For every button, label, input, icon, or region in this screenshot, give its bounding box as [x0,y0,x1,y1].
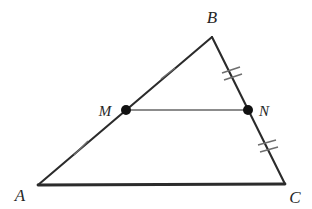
tick-mark-nc-double [258,140,278,152]
geometry-figure: A B C M N [0,0,312,209]
point-label-m: M [98,103,113,119]
tick-mark-mb-single [161,68,175,79]
vertex-label-b: B [207,8,218,27]
point-marker-m [121,105,131,115]
point-label-n: N [258,103,270,119]
triangle-diagram-svg: A B C M N [0,0,312,209]
tick-mark-am-single [74,141,88,155]
vertex-label-c: C [289,188,301,207]
tick-mark-bn-double [222,67,242,80]
vertex-label-a: A [14,186,26,205]
point-marker-n [243,105,253,115]
segment-ac [38,184,285,185]
